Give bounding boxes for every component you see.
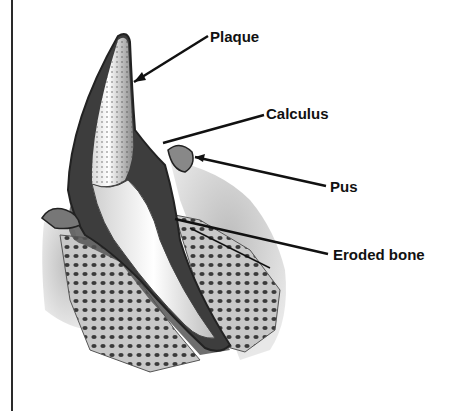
label-plaque: Plaque <box>210 28 259 45</box>
gum-tissue-right <box>168 145 193 172</box>
label-pus: Pus <box>330 178 358 195</box>
label-eroded-bone: Eroded bone <box>333 246 425 263</box>
label-calculus: Calculus <box>266 105 329 122</box>
tooth-illustration <box>0 0 463 411</box>
